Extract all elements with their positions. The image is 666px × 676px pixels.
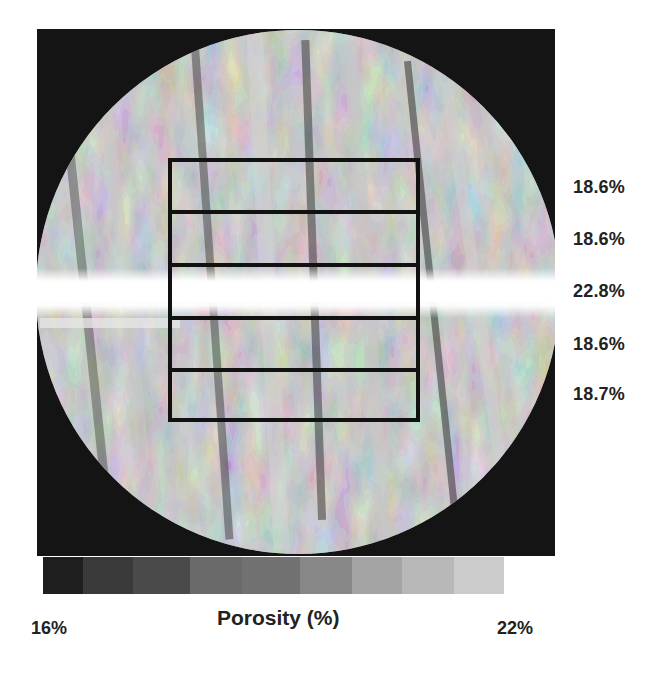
porosity-figure xyxy=(0,0,666,676)
colorbar-max-label: 22% xyxy=(497,618,533,639)
colorbar-swatch xyxy=(83,557,133,594)
colorbar xyxy=(43,557,556,594)
zone-label-5: 18.7% xyxy=(573,384,625,405)
colorbar-swatch xyxy=(242,557,300,594)
zone-label-2: 18.6% xyxy=(573,229,625,250)
colorbar-swatch xyxy=(402,557,454,594)
colorbar-min-label: 16% xyxy=(31,618,67,639)
zone-label-1: 18.6% xyxy=(573,177,625,198)
colorbar-swatch xyxy=(133,557,190,594)
zone-label-3: 22.8% xyxy=(573,281,625,302)
colorbar-swatch xyxy=(43,557,83,594)
colorbar-swatch xyxy=(190,557,242,594)
zone-label-4: 18.6% xyxy=(573,334,625,355)
colorbar-swatch xyxy=(352,557,402,594)
colorbar-swatch xyxy=(504,557,556,594)
colorbar-swatch xyxy=(454,557,504,594)
colorbar-swatch xyxy=(300,557,352,594)
colorbar-title: Porosity (%) xyxy=(217,606,340,630)
